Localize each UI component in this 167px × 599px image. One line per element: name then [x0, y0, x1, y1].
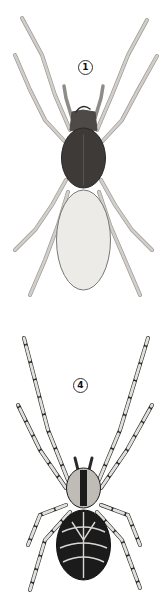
figure-4: 4 — [0, 300, 167, 599]
spider-4-illustration — [0, 300, 167, 599]
cephalic-stripe — [80, 470, 87, 506]
chelicerae — [70, 110, 97, 130]
pedipalp — [64, 86, 72, 118]
figure-label: 1 — [78, 60, 93, 75]
pedipalp — [89, 458, 92, 470]
spider-1-illustration — [0, 0, 167, 300]
pedipalp — [75, 458, 78, 470]
figure-label: 4 — [73, 378, 88, 393]
abdomen — [57, 190, 111, 290]
leg — [15, 55, 68, 145]
figure-1: 1 — [0, 0, 167, 300]
pedipalp — [95, 86, 103, 118]
